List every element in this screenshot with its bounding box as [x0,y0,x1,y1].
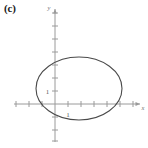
x-axis-arrow-icon [136,102,141,106]
x-axis-label: x [141,104,145,111]
plot-area: 1 1 x y [0,0,148,148]
y-tick-label-one: 1 [46,88,50,96]
x-tick-label-one: 1 [66,111,70,119]
y-axis-label: y [47,4,51,11]
figure-panel: (c) [0,0,148,148]
